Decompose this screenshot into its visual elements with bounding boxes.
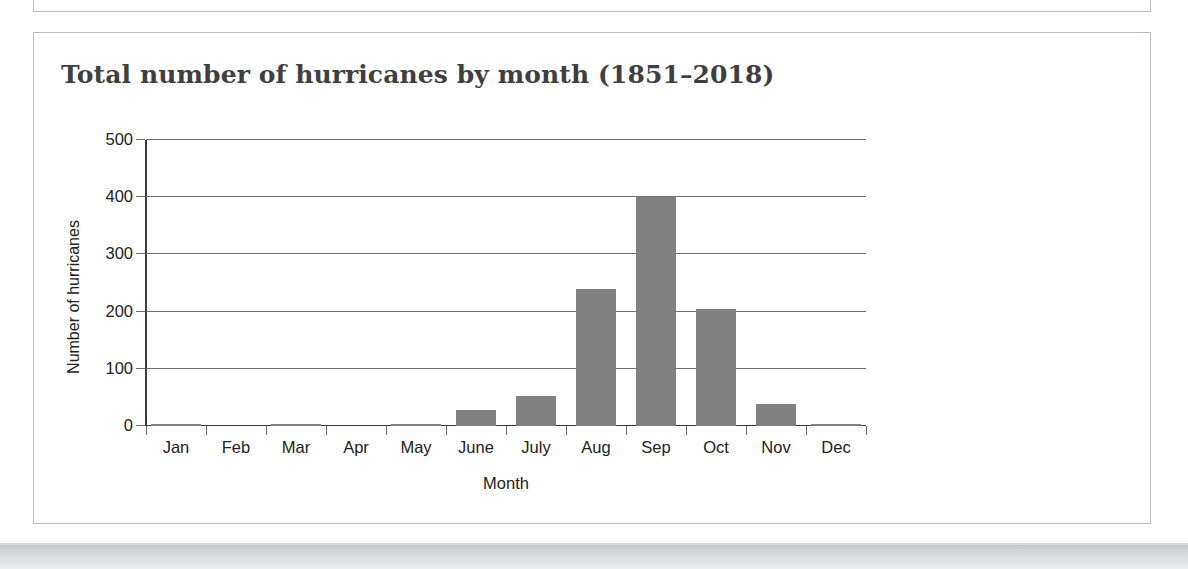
figure-card: Total number of hurricanes by month (185… [33,32,1151,524]
x-tick-mark [626,426,627,435]
y-tick-mark [136,253,145,254]
y-tick-mark [136,311,145,312]
y-tick-mark [136,425,145,426]
x-tick-mark [566,426,567,435]
bar-july[interactable] [516,396,557,426]
x-tick-label: Dec [806,438,866,457]
bar-mar[interactable] [271,424,320,426]
y-tick-label: 500 [105,130,133,149]
x-tick-mark [326,426,327,435]
y-tick-label: 200 [105,301,133,320]
y-tick-label: 100 [105,358,133,377]
bar-jan[interactable] [151,424,200,426]
x-tick-label: Apr [326,438,386,457]
x-tick-mark [446,426,447,435]
x-tick-label: Feb [206,438,266,457]
x-tick-label: Aug [566,438,626,457]
x-tick-label: Sep [626,438,686,457]
bar-slot [626,140,686,426]
x-tick-label: Nov [746,438,806,457]
bar-slot [506,140,566,426]
bar-slot [746,140,806,426]
bar-slot [266,140,326,426]
x-tick-label: June [446,438,506,457]
y-tick-mark [136,196,145,197]
bar-slot [326,140,386,426]
bar-slot [206,140,266,426]
bar-may[interactable] [391,424,440,426]
bar-dec[interactable] [811,424,860,426]
bar-series [146,140,866,426]
x-tick-mark [686,426,687,435]
x-tick-mark [746,426,747,435]
x-tick-mark [146,426,147,435]
x-tick-label: May [386,438,446,457]
bar-slot [146,140,206,426]
x-tick-mark [506,426,507,435]
y-tick-mark [136,368,145,369]
x-tick-label: Oct [686,438,746,457]
x-tick-label: July [506,438,566,457]
x-tick-mark [206,426,207,435]
bar-slot [386,140,446,426]
bar-oct[interactable] [696,309,737,426]
y-tick-label: 400 [105,187,133,206]
y-tick-mark [136,139,145,140]
adjacent-panel-edge [33,0,1151,12]
x-axis-tick-labels: JanFebMarAprMayJuneJulyAugSepOctNovDec [146,438,866,457]
bar-june[interactable] [456,410,497,426]
y-axis-title: Number of hurricanes [65,187,83,407]
plot-area: 5004003002001000 JanFebMarAprMayJuneJuly… [146,140,866,426]
y-tick-label: 300 [105,244,133,263]
bar-sep[interactable] [636,197,677,426]
x-tick-label: Jan [146,438,206,457]
x-tick-mark [386,426,387,435]
x-tick-mark [866,426,867,435]
x-tick-label: Mar [266,438,326,457]
y-tick-label: 0 [124,415,133,434]
bar-slot [446,140,506,426]
chart-plot-wrapper: Number of hurricanes 5004003002001000 Ja… [34,33,1152,525]
bar-nov[interactable] [756,404,797,426]
bar-aug[interactable] [576,289,617,426]
bar-slot [566,140,626,426]
x-tick-mark [806,426,807,435]
page-bottom-shadow [0,545,1188,569]
x-axis-title: Month [146,474,866,493]
bar-slot [806,140,866,426]
bar-slot [686,140,746,426]
x-tick-mark [266,426,267,435]
